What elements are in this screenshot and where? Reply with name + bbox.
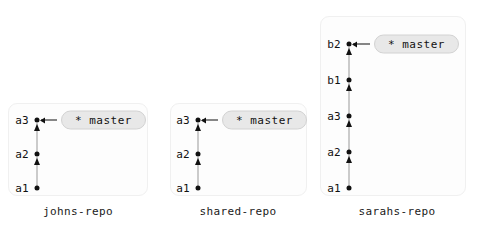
commit-label-a1: a1	[15, 182, 35, 195]
commit-label-a2: a2	[327, 146, 347, 159]
branch-badge-master: * master	[222, 111, 307, 130]
commit-label-a3: a3	[176, 114, 196, 127]
repo-name-label-johns-repo: johns-repo	[43, 205, 113, 218]
git-repo-diagram: a3a2a1* masterjohns-repoa3a2a1* mastersh…	[0, 0, 482, 231]
commit-node-a1	[35, 186, 40, 191]
commit-label-a2: a2	[176, 148, 196, 161]
commit-node-a1	[196, 186, 201, 191]
branch-badge-master: * master	[61, 111, 146, 130]
branch-pointer-arrow-icon	[202, 120, 218, 121]
repo-name-label-sarahs-repo: sarahs-repo	[358, 205, 435, 218]
commit-node-b1	[347, 78, 352, 83]
commit-label-b2: b2	[327, 38, 347, 51]
branch-badge-master: * master	[374, 35, 459, 54]
commit-label-a1: a1	[327, 182, 347, 195]
commit-node-a1	[347, 186, 352, 191]
commit-node-a2	[196, 152, 201, 157]
repo-name-label-shared-repo: shared-repo	[199, 205, 276, 218]
commit-label-a2: a2	[15, 148, 35, 161]
commit-node-a3	[35, 118, 40, 123]
branch-pointer-arrow-icon	[353, 44, 370, 45]
commit-label-a1: a1	[176, 182, 196, 195]
branch-pointer-arrow-icon	[41, 120, 57, 121]
commit-label-a3: a3	[15, 114, 35, 127]
commit-label-b1: b1	[327, 74, 347, 87]
commit-label-a3: a3	[327, 110, 347, 123]
commit-node-a3	[347, 114, 352, 119]
commit-node-a2	[35, 152, 40, 157]
commit-node-b2	[347, 42, 352, 47]
commit-node-a2	[347, 150, 352, 155]
commit-node-a3	[196, 118, 201, 123]
